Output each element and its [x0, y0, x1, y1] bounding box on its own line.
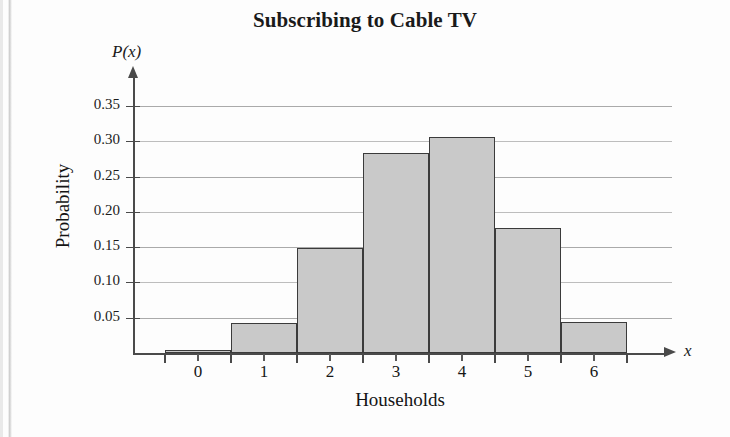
x-bin-boundary-tick-2 [296, 354, 297, 363]
x-bin-boundary-tick-3 [362, 354, 363, 363]
x-tick-label-1: 1 [244, 362, 284, 382]
bar-1 [231, 323, 297, 353]
x-bin-boundary-tick-6 [560, 354, 561, 363]
x-axis-variable-label: x [684, 341, 692, 361]
plot-area: 0.050.100.150.200.250.300.35 0123456 P(x… [0, 0, 730, 437]
x-tick-label-0: 0 [178, 362, 218, 382]
y-axis-line [133, 75, 135, 354]
bar-5 [495, 228, 561, 353]
x-tick-mark-6 [593, 354, 594, 361]
x-tick-label-4: 4 [442, 362, 482, 382]
x-tick-mark-2 [329, 354, 330, 361]
bar-6 [561, 322, 627, 353]
x-tick-mark-3 [395, 354, 396, 361]
bar-3 [363, 153, 429, 353]
y-axis-title: Probability [52, 121, 74, 291]
x-axis-line [133, 353, 667, 355]
x-bin-boundary-tick-5 [494, 354, 495, 363]
x-tick-label-5: 5 [508, 362, 548, 382]
gridline-0.30 [133, 141, 672, 142]
x-tick-mark-5 [527, 354, 528, 361]
x-bin-boundary-tick-0 [164, 354, 165, 363]
figure-page: Subscribing to Cable TV 0.050.100.150.20… [0, 0, 730, 437]
x-tick-label-3: 3 [376, 362, 416, 382]
x-tick-mark-0 [197, 354, 198, 361]
x-bin-boundary-tick-7 [626, 354, 627, 363]
y-axis-variable-label: P(x) [112, 42, 141, 62]
gridline-0.35 [133, 106, 672, 107]
x-bin-boundary-tick-4 [428, 354, 429, 363]
x-bin-boundary-tick-1 [230, 354, 231, 363]
x-tick-label-2: 2 [310, 362, 350, 382]
x-axis-title: Households [133, 389, 667, 411]
bar-4 [429, 137, 495, 353]
x-tick-label-6: 6 [574, 362, 614, 382]
y-tick-label-0.05: 0.05 [58, 308, 120, 325]
x-axis-arrow-icon [664, 347, 676, 357]
y-tick-label-0.35: 0.35 [58, 96, 120, 113]
bar-2 [297, 248, 363, 353]
y-axis-arrow-icon [128, 66, 138, 78]
x-tick-mark-1 [263, 354, 264, 361]
x-tick-mark-4 [461, 354, 462, 361]
